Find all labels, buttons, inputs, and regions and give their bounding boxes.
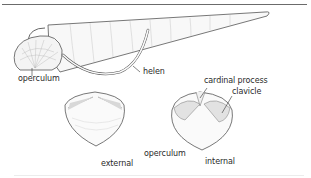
label-internal: internal [205,158,235,166]
label-external: external [101,160,133,168]
label-cardinal-process: cardinal process [204,77,268,85]
bottom-rule [14,175,304,176]
label-helen: helen [143,68,165,76]
helen-leader [133,66,140,72]
operculum-external [65,92,124,146]
label-operculum-apertural: operculum [18,75,60,83]
label-clavicle: clavicle [232,88,261,96]
operculum-internal [172,92,233,150]
operculum-apertural [14,36,62,70]
conical-shell [48,12,269,72]
label-operculum-center: operculum [144,150,186,158]
